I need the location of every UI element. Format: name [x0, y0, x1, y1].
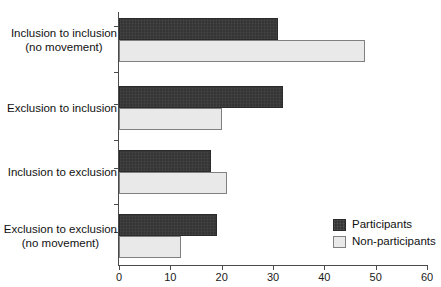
x-axis-tick — [170, 265, 171, 270]
bar-exclusion-to-inclusion-participants — [119, 86, 283, 108]
x-axis-tick — [222, 265, 223, 270]
bar-inclusion-to-inclusion-participants — [119, 18, 278, 40]
x-axis-tick — [273, 265, 274, 270]
bar-inclusion-to-exclusion-nonparticipants — [119, 172, 227, 194]
x-axis-tick-label: 0 — [116, 271, 122, 284]
bar-exclusion-to-inclusion-nonparticipants — [119, 108, 222, 130]
legend-label-non-participants: Non-participants — [352, 235, 436, 248]
x-axis-tick-label: 10 — [164, 271, 176, 284]
legend-item-non-participants: Non-participants — [333, 235, 436, 248]
legend-label-participants: Participants — [352, 218, 412, 231]
category-label-exclusion-to-inclusion: Exclusion to inclusion — [7, 101, 117, 115]
x-axis-tick — [324, 265, 325, 270]
x-axis-tick-label: 30 — [267, 271, 279, 284]
bar-inclusion-to-exclusion-participants — [119, 150, 211, 172]
x-axis-tick — [376, 265, 377, 270]
x-axis-tick-label: 60 — [421, 271, 433, 284]
x-axis-tick — [119, 265, 120, 270]
category-label-inclusion-to-inclusion: Inclusion to inclusion (no movement) — [11, 26, 117, 54]
category-label-inclusion-to-exclusion: Inclusion to exclusion — [8, 165, 117, 179]
legend: Participants Non-participants — [333, 218, 436, 248]
bar-chart: Inclusion to inclusion (no movement) Exc… — [0, 0, 441, 287]
x-axis-tick-label: 40 — [318, 271, 330, 284]
legend-swatch-non-participants-icon — [333, 236, 346, 248]
legend-item-participants: Participants — [333, 218, 436, 231]
bar-exclusion-to-exclusion-participants — [119, 214, 217, 236]
legend-swatch-participants-icon — [333, 219, 346, 231]
bar-exclusion-to-exclusion-nonparticipants — [119, 236, 181, 258]
bar-inclusion-to-inclusion-nonparticipants — [119, 40, 365, 62]
category-label-exclusion-to-exclusion: Exclusion to exclusion (no movement) — [4, 222, 117, 250]
x-axis-tick-label: 20 — [216, 271, 228, 284]
x-axis-tick — [427, 265, 428, 270]
x-axis-tick-label: 50 — [370, 271, 382, 284]
